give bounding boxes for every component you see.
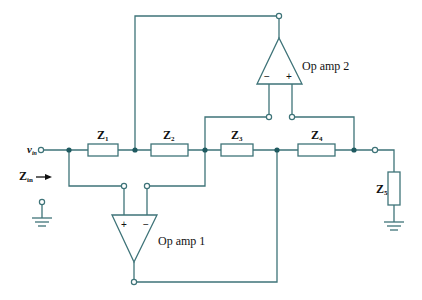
label-z1: Z1	[97, 128, 109, 143]
label-z3: Z3	[231, 128, 243, 143]
impedance-z5	[388, 172, 400, 205]
impedance-z2	[151, 144, 188, 156]
opamp1-label: Op amp 1	[158, 234, 205, 248]
circuit-diagram: − + Op amp 2 + − Op amp 1 Z1 Z2 Z3 Z4 Z5…	[0, 0, 422, 300]
opamp1-minus: −	[143, 219, 149, 230]
impedance-z1	[88, 144, 118, 156]
opamp2-plus: +	[286, 71, 292, 82]
opamp1-plus: +	[121, 219, 127, 230]
label-z5: Z5	[376, 182, 388, 197]
label-z4: Z4	[311, 128, 323, 143]
opamp2-label: Op amp 2	[302, 59, 349, 73]
opamp2-minus: −	[264, 71, 270, 82]
input-terminal	[38, 147, 43, 152]
output-terminal	[372, 147, 377, 152]
label-z2: Z2	[163, 128, 175, 143]
impedance-z3	[221, 144, 253, 156]
label-zin: Zin	[19, 169, 33, 184]
label-vin: vin	[27, 143, 38, 156]
impedance-z4	[298, 144, 335, 156]
opamp1-triangle	[112, 215, 157, 262]
zin-arrow-icon	[36, 174, 52, 180]
ground-symbol-input	[32, 199, 52, 226]
opamp1-wiring	[69, 150, 277, 282]
ground-symbol-z5	[384, 222, 404, 230]
